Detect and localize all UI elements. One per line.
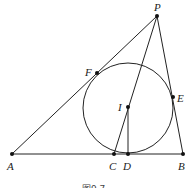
label-E: E (176, 92, 184, 104)
figure-caption: 图9.7 (82, 184, 105, 188)
label-B: B (178, 160, 185, 172)
segment-PB (157, 16, 183, 154)
point-I (126, 105, 130, 109)
point-D (126, 152, 130, 156)
label-D: D (122, 160, 131, 172)
label-A: A (6, 160, 14, 172)
point-P (155, 14, 159, 18)
label-C: C (109, 160, 117, 172)
label-F: F (84, 66, 92, 78)
point-B (181, 152, 185, 156)
geometry-diagram: P F I E A C D B 图9.7 (0, 0, 190, 188)
label-P: P (153, 1, 161, 13)
point-E (171, 95, 175, 99)
point-A (10, 152, 14, 156)
point-C (112, 152, 116, 156)
point-F (95, 71, 99, 75)
label-I: I (117, 101, 123, 113)
